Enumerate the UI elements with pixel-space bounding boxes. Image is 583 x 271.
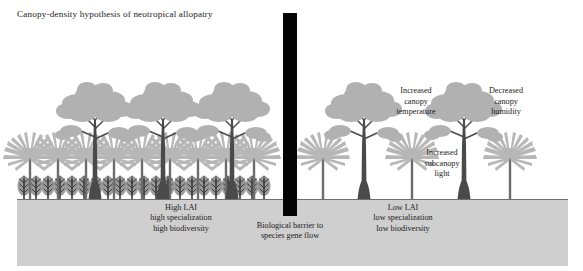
barrier-caption: Biological barrier to species gene flow [222,221,358,242]
left-forest-stand [3,82,281,199]
right-stand-heading: Low LAI [318,203,488,213]
annotation-canopy-humidity: Decreased canopy humidity [466,86,546,118]
biological-barrier-bar [283,13,297,216]
subcanopy-light-line-3: light [400,169,484,180]
subcanopy-light-line-1: Increased [400,148,484,159]
barrier-label-line-2: species gene flow [222,231,358,241]
figure-canopy-density-hypothesis: Canopy-density hypothesis of neotropical… [0,0,583,271]
canopy-humidity-line-2: canopy [466,97,546,108]
subcanopy-light-line-2: subcanopy [400,159,484,170]
barrier-label-line-1: Biological barrier to [222,221,358,231]
canopy-humidity-line-1: Decreased [466,86,546,97]
canopy-temperature-line-2: canopy [376,97,456,108]
canopy-humidity-line-3: humidity [466,107,546,118]
canopy-temperature-line-1: Increased [376,86,456,97]
annotation-subcanopy-light: Increased subcanopy light [400,148,484,180]
annotation-canopy-temperature: Increased canopy temperature [376,86,456,118]
canopy-temperature-line-3: temperature [376,107,456,118]
left-stand-heading: High LAI [96,203,266,213]
